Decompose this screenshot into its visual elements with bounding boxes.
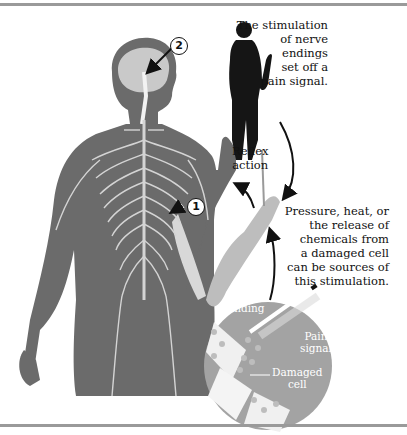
stimulation-sources-label: Pressure, heat, or the release of chemic… [285, 204, 389, 288]
human-figure-back-view [19, 38, 236, 396]
nerve-ending-label: Nerve ending [228, 290, 265, 314]
callout-two: 2 [170, 37, 188, 55]
inset-magnified-view [204, 284, 332, 432]
bottom-rule [0, 424, 407, 427]
callout-one: 1 [187, 198, 205, 216]
damaged-cell-label: Damaged cell [272, 366, 323, 390]
pain-signal-label: Pain signal [300, 330, 332, 354]
reflex-action-label: Reflex action [232, 144, 268, 172]
stimulation-label: The stimulation of nerve endings set off… [237, 18, 328, 88]
